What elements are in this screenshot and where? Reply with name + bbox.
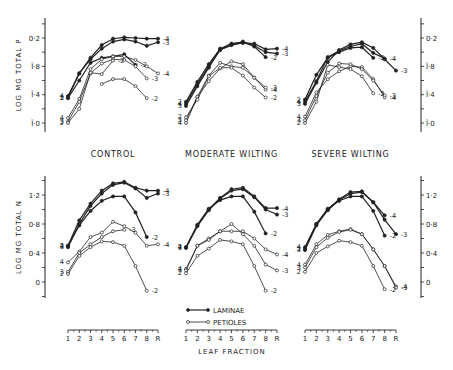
series-end-label: -4 (282, 251, 288, 259)
x-tick-label: 6 (122, 335, 127, 343)
x-tick-label: 2 (195, 335, 199, 343)
data-point (78, 72, 81, 75)
data-point (66, 244, 69, 247)
data-point (230, 223, 233, 226)
data-point (123, 225, 126, 228)
data-point (394, 69, 397, 72)
data-point (219, 230, 222, 233)
data-point (78, 100, 81, 103)
data-point (67, 273, 70, 276)
right-y-axis-row-1: Ī·0Ī·4Ī·80·2 (421, 18, 437, 132)
panel-title: MODERATE WILTING (185, 150, 278, 159)
data-point (303, 247, 306, 250)
series-end-label: -3 (401, 67, 407, 75)
data-point (383, 218, 386, 221)
data-point (89, 246, 92, 249)
data-point (360, 191, 363, 194)
data-point (112, 59, 115, 62)
data-point (326, 245, 329, 248)
data-point (338, 230, 341, 233)
series-start-label: 2 (297, 268, 301, 276)
y-tick-label: 0·2 (29, 35, 40, 43)
data-point (184, 246, 187, 249)
series-end-label: -2 (152, 234, 158, 242)
x-axis-panel-1: 12345678R (66, 330, 161, 343)
data-point (326, 56, 329, 59)
data-point (326, 71, 329, 74)
series-laminae-3: -33 (297, 191, 408, 255)
y-axis-title: LOG MG TOTAL P (15, 38, 23, 111)
data-point (145, 65, 148, 68)
panel-moderate-wilting-row-1: -44-33-22-44-33-22 (178, 40, 289, 127)
data-point (315, 73, 318, 76)
data-point (383, 288, 386, 291)
data-point (219, 47, 222, 50)
data-point (253, 244, 256, 247)
open-marker-icon (207, 321, 210, 324)
data-point (303, 98, 306, 101)
series-end-label: -3 (390, 92, 396, 100)
data-point (326, 63, 329, 66)
series-end-label: -2 (271, 230, 277, 238)
right-y-axis-row-2: 00·40·81·2 (421, 176, 438, 298)
data-point (360, 46, 363, 49)
data-point (304, 122, 307, 125)
data-point (315, 222, 318, 225)
data-point (184, 100, 187, 103)
legend-label: PETIOLES (213, 319, 247, 327)
x-tick-label: 8 (145, 335, 149, 343)
legend-label: LAMINAE (213, 307, 244, 315)
data-point (134, 85, 137, 88)
data-point (207, 75, 210, 78)
data-point (112, 220, 115, 223)
series-petioles-2: -22 (60, 240, 158, 295)
data-point (111, 183, 114, 186)
data-point (315, 252, 318, 255)
data-point (372, 79, 375, 82)
filled-marker-icon (187, 309, 190, 312)
series-end-label: -2 (271, 287, 277, 295)
x-axis-panel-3: 12345678R (303, 330, 399, 343)
data-point (241, 195, 244, 198)
data-point (134, 265, 137, 268)
data-point (184, 104, 187, 107)
data-point (100, 231, 103, 234)
y-tick-label: 0 (426, 279, 430, 287)
data-point (253, 45, 256, 48)
data-point (241, 233, 244, 236)
data-point (241, 243, 244, 246)
data-point (100, 43, 103, 46)
data-point (315, 100, 318, 103)
series-start-label: 2 (60, 119, 64, 127)
data-point (275, 213, 278, 216)
data-point (78, 254, 81, 257)
y-tick-label: 1·2 (426, 192, 437, 200)
data-point (156, 37, 159, 40)
data-point (264, 56, 267, 59)
series-end-label: -4 (163, 70, 169, 78)
data-point (360, 68, 363, 71)
data-point (100, 47, 103, 50)
series-end-label: -4 (390, 212, 396, 220)
data-point (67, 261, 70, 264)
data-point (230, 230, 233, 233)
data-point (89, 58, 92, 61)
panel-title: CONTROL (91, 150, 136, 159)
data-point (145, 37, 148, 40)
data-point (360, 41, 363, 44)
data-point (67, 122, 70, 125)
data-point (372, 46, 375, 49)
data-point (134, 65, 137, 68)
data-point (196, 98, 199, 101)
series-end-label: -2 (378, 54, 384, 62)
data-point (219, 238, 222, 241)
left-y-axis-row-1: Ī·0Ī·4Ī·80·2 (29, 18, 45, 132)
x-tick-label: 8 (382, 335, 386, 343)
data-point (89, 71, 92, 74)
x-tick-label: 3 (326, 335, 330, 343)
data-point (241, 66, 244, 69)
data-point (196, 244, 199, 247)
data-point (241, 188, 244, 191)
data-point (315, 81, 318, 84)
x-tick-label: 5 (111, 335, 115, 343)
